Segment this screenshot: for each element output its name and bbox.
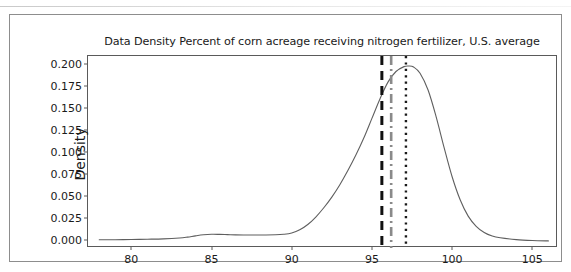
y-axis-tick-mark: [84, 107, 88, 108]
y-axis-tick-label: 0.150: [51, 101, 83, 114]
density-plot-svg: [88, 56, 558, 248]
page-edge-artifact: [0, 6, 571, 7]
y-axis-tick-label: 0.200: [51, 57, 83, 70]
x-axis-tick-mark: [131, 246, 132, 250]
density-curve: [99, 66, 548, 241]
chart-title: Data Density Percent of corn acreage rec…: [87, 35, 557, 48]
y-axis-tick-mark: [84, 196, 88, 197]
x-axis-tick-label: 95: [365, 253, 379, 266]
y-axis-tick-mark: [84, 174, 88, 175]
y-axis-tick-mark: [84, 240, 88, 241]
x-axis-tick-mark: [371, 246, 372, 250]
y-axis-tick-label: 0.025: [51, 212, 83, 225]
y-axis-tick-label: 0.000: [51, 234, 83, 247]
x-axis-tick-mark: [532, 246, 533, 250]
x-axis-tick-label: 80: [124, 253, 138, 266]
y-axis-tick-label: 0.125: [51, 123, 83, 136]
x-axis-tick-label: 90: [285, 253, 299, 266]
y-axis-tick-label: 0.100: [51, 146, 83, 159]
plot-area: Density 0.0000.0250.0500.0750.1000.1250.…: [87, 55, 557, 247]
y-axis-tick-mark: [84, 85, 88, 86]
y-axis-tick-label: 0.175: [51, 79, 83, 92]
x-axis-tick-label: 100: [442, 253, 463, 266]
x-axis-tick-mark: [291, 246, 292, 250]
y-axis-tick-mark: [84, 129, 88, 130]
y-axis-tick-mark: [84, 152, 88, 153]
figure-frame: Data Density Percent of corn acreage rec…: [9, 14, 562, 262]
y-axis-tick-label: 0.075: [51, 168, 83, 181]
x-axis-tick-label: 85: [205, 253, 219, 266]
x-axis-tick-mark: [452, 246, 453, 250]
y-axis-tick-label: 0.050: [51, 190, 83, 203]
x-axis-tick-label: 105: [522, 253, 543, 266]
y-axis-tick-mark: [84, 218, 88, 219]
y-axis-tick-mark: [84, 63, 88, 64]
x-axis-tick-mark: [211, 246, 212, 250]
